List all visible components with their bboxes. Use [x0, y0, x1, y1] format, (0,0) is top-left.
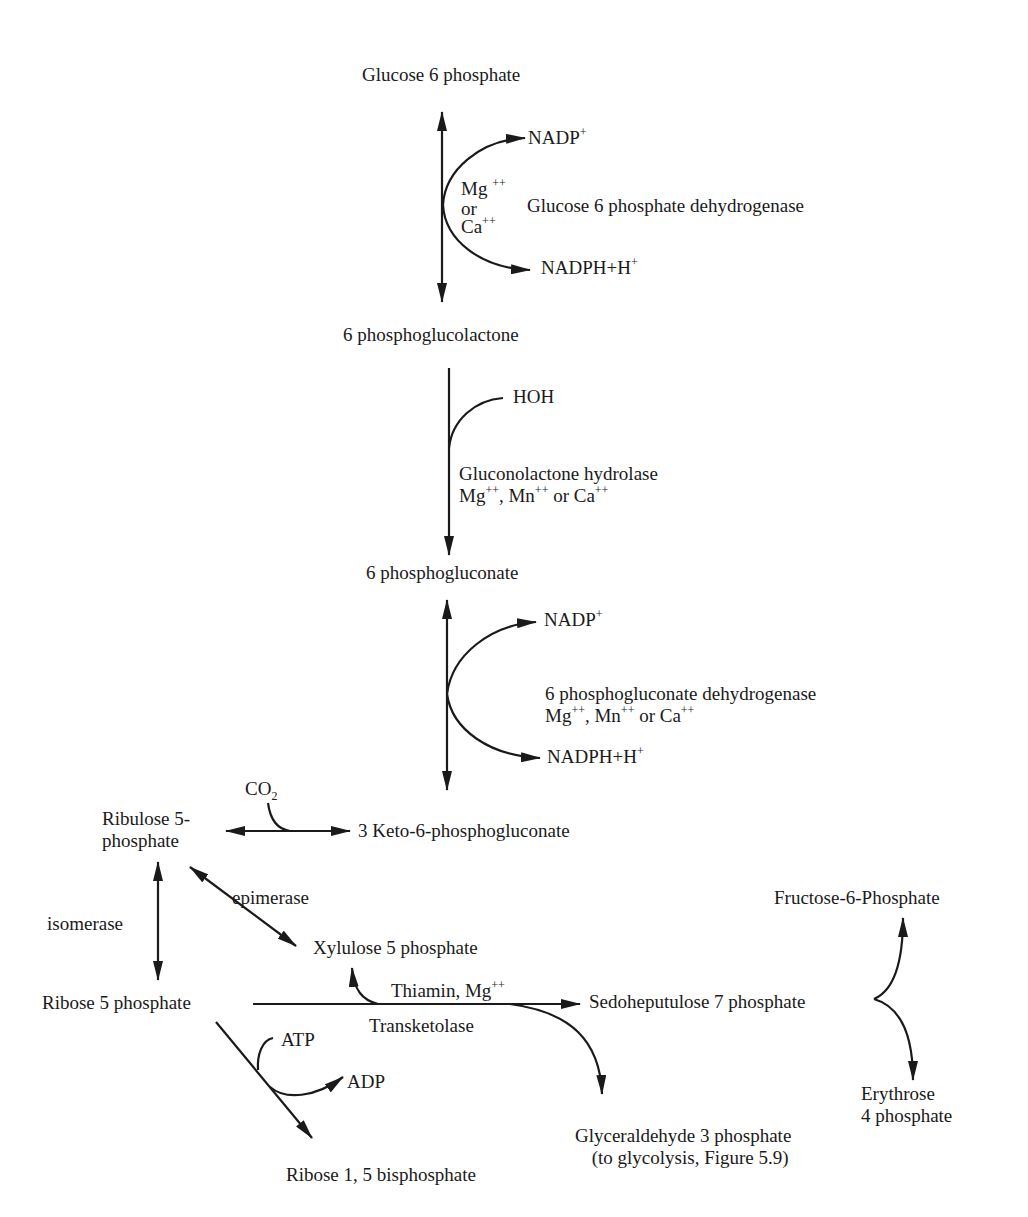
erythrose-line-1: Erythrose — [861, 1083, 952, 1105]
compound-ribulose-5-phosphate: Ribulose 5- phosphate — [102, 808, 190, 852]
pentose-phosphate-pathway-diagram: Glucose 6 phosphate 6 phosphoglucolacton… — [0, 0, 1028, 1217]
enzyme-transketolase: Transketolase — [369, 1015, 474, 1037]
compound-glucose-6-phosphate: Glucose 6 phosphate — [362, 64, 520, 86]
compound-glyceraldehyde-3-phosphate: Glyceraldehyde 3 phosphate (to glycolysi… — [575, 1125, 791, 1169]
arrow-hoh-in — [449, 398, 503, 448]
arrow-to-xu5p — [352, 968, 378, 1004]
cofactor-nadp-1: NADP+ — [528, 127, 587, 151]
cofactor-nadp-2: NADP+ — [544, 609, 603, 633]
erythrose-line-2: 4 phosphate — [861, 1105, 952, 1127]
compound-ribose-1-5-bisphosphate: Ribose 1, 5 bisphosphate — [286, 1164, 476, 1186]
enzyme-epimerase: epimerase — [232, 887, 309, 909]
cofactor-adp: ADP — [347, 1071, 385, 1093]
cofactor-hoh: HOH — [513, 386, 554, 408]
gap-line-1: Glyceraldehyde 3 phosphate — [575, 1125, 791, 1147]
arrow-nadp-to-nadph-2 — [447, 622, 540, 758]
compound-xylulose-5-phosphate: Xylulose 5 phosphate — [313, 937, 478, 959]
cofactor-co2: CO2 — [245, 778, 277, 802]
cofactor-nadph-2: NADPH+H+ — [547, 746, 644, 770]
cofactor-mg-or-ca: Mg ++ or Ca++ — [461, 178, 506, 240]
arrow-s7p-e4p — [874, 999, 913, 1080]
ribulose-line-2: phosphate — [102, 830, 190, 852]
arrow-s7p-f6p — [874, 918, 903, 999]
cofactor-thiamin-mg: Thiamin, Mg++ — [391, 980, 505, 1004]
ribulose-line-1: Ribulose 5- — [102, 808, 190, 830]
compound-erythrose-4-phosphate: Erythrose 4 phosphate — [861, 1083, 952, 1127]
compound-fructose-6-phosphate: Fructose-6-Phosphate — [774, 887, 940, 909]
enzyme-isomerase: isomerase — [47, 913, 123, 935]
compound-6-phosphogluconate: 6 phosphogluconate — [366, 562, 519, 584]
arrow-adp-out — [270, 1077, 343, 1095]
arrow-to-gap — [510, 1004, 602, 1094]
enzyme-gluconolactone-hydrolase: Gluconolactone hydrolase Mg++, Mn++ or C… — [459, 463, 658, 509]
enzyme-6-phosphogluconate-dehydrogenase: 6 phosphogluconate dehydrogenase Mg++, M… — [545, 683, 816, 729]
cofactor-atp: ATP — [281, 1029, 315, 1051]
arrows-layer — [0, 0, 1028, 1217]
compound-6-phosphoglucolactone: 6 phosphoglucolactone — [343, 324, 519, 346]
arrow-atp-in — [258, 1038, 273, 1070]
arrow-co2-out — [268, 803, 290, 831]
compound-sedoheptulose-7-phosphate: Sedoheputulose 7 phosphate — [589, 991, 805, 1013]
compound-ribose-5-phosphate: Ribose 5 phosphate — [42, 992, 191, 1014]
enzyme-glucose-6-phosphate-dehydrogenase: Glucose 6 phosphate dehydrogenase — [527, 195, 804, 217]
gap-line-2: (to glycolysis, Figure 5.9) — [575, 1147, 791, 1169]
cofactor-nadph-1: NADPH+H+ — [541, 257, 638, 281]
compound-3-keto-6-phosphogluconate: 3 Keto-6-phosphogluconate — [358, 820, 570, 842]
